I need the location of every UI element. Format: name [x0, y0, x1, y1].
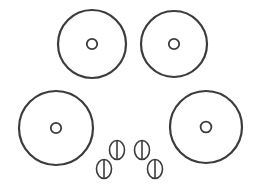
- washer-bottom-left: [19, 91, 93, 165]
- washer-bottom-right-center-hole: [201, 122, 212, 133]
- washer-top-right: [141, 11, 207, 77]
- diagram-canvas: [0, 0, 258, 196]
- screw-upper-left: [110, 141, 125, 160]
- washer-top-right-center-hole: [169, 39, 179, 49]
- screw-lower-right: [148, 160, 163, 179]
- washer-bottom-left-center-hole: [51, 123, 61, 133]
- washer-top-left: [58, 10, 126, 78]
- screw-upper-right: [135, 141, 150, 160]
- screw-lower-left: [97, 160, 112, 179]
- washer-bottom-right: [170, 91, 242, 163]
- parts-diagram: [0, 0, 258, 196]
- washer-top-left-center-hole: [87, 39, 97, 49]
